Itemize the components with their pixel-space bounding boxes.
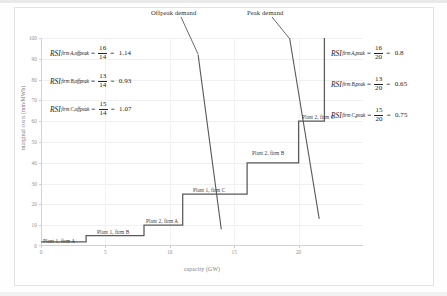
formula-symbol: RSI (331, 80, 342, 89)
formula-equals-2: = (109, 105, 117, 113)
formula-numerator: 13 (99, 73, 106, 80)
formula-denominator: 14 (99, 82, 106, 89)
formula-denominator: 20 (375, 54, 382, 61)
formula-symbol: RSI (50, 105, 61, 114)
formula-equals: = (89, 49, 97, 57)
formula-rsi-firmA-offpeak: RSIfirm A,offpeak = 16 14 = 1.14 (50, 45, 131, 62)
formula-fraction: 16 14 (97, 45, 108, 62)
formula-denominator: 20 (375, 116, 382, 123)
formula-numerator: 16 (99, 45, 106, 52)
formula-subscript: firm B,offpeak (61, 78, 89, 84)
offpeak-label-leader (181, 17, 198, 54)
formula-fraction: 13 20 (373, 76, 384, 93)
formula-numerator: 15 (375, 107, 382, 114)
formula-subscript: firm B,peak (342, 81, 365, 87)
formula-result: 0.75 (393, 111, 408, 119)
formula-symbol: RSI (331, 111, 342, 120)
formula-fraction: 16 20 (373, 45, 384, 62)
formula-rsi-firmC-peak: RSIfirm C,peak = 15 20 = 0.75 (331, 107, 407, 124)
formula-equals-2: = (384, 111, 392, 119)
formula-equals: = (365, 49, 373, 57)
formula-symbol: RSI (50, 77, 61, 86)
formula-equals: = (89, 77, 97, 85)
formula-numerator: 15 (99, 101, 106, 108)
formula-equals: = (365, 111, 373, 119)
formula-result: 0.93 (117, 77, 132, 85)
formula-fraction: 13 14 (97, 73, 108, 90)
formula-numerator: 13 (375, 76, 382, 83)
formula-rsi-firmC-offpeak: RSIfirm C,offpeak = 15 14 = 1.07 (50, 101, 132, 118)
peak-label-leader (272, 17, 289, 38)
formula-denominator: 14 (99, 54, 106, 61)
formula-equals-2: = (108, 77, 116, 85)
formula-result: 1.07 (117, 105, 132, 113)
formula-rsi-firmA-peak: RSIfirm A,peak = 16 20 = 0.8 (331, 45, 404, 62)
scanned-page: marginal costs (mm/MWh) capacity (GW) (0, 0, 447, 296)
formula-equals: = (365, 80, 373, 88)
formula-equals: = (89, 105, 97, 113)
formula-rsi-firmB-offpeak: RSIfirm B,offpeak = 13 14 = 0.93 (50, 73, 131, 90)
formula-symbol: RSI (331, 49, 342, 58)
formula-subscript: firm A,offpeak (61, 50, 89, 56)
formula-equals-2: = (384, 49, 392, 57)
formula-equals-2: = (108, 49, 116, 57)
formula-subscript: firm C,offpeak (61, 106, 89, 112)
formula-result: 1.14 (117, 49, 132, 57)
formula-denominator: 14 (99, 110, 106, 117)
formula-numerator: 16 (375, 45, 382, 52)
formula-denominator: 20 (375, 85, 382, 92)
formula-symbol: RSI (50, 49, 61, 58)
formula-subscript: firm C,peak (342, 112, 365, 118)
formula-result: 0.8 (392, 49, 403, 57)
formula-subscript: firm A,peak (342, 50, 365, 56)
formula-fraction: 15 20 (373, 107, 384, 124)
formula-fraction: 15 14 (98, 101, 109, 118)
formula-rsi-firmB-peak: RSIfirm B,peak = 13 20 = 0.65 (331, 76, 407, 93)
formula-result: 0.65 (393, 80, 408, 88)
formula-equals-2: = (384, 80, 392, 88)
